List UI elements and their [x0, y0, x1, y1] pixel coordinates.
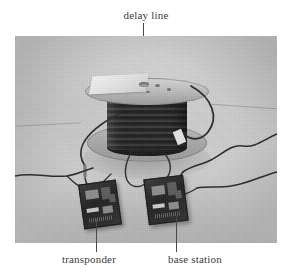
transponder-chip-1 — [85, 189, 99, 200]
cable-floor-right-lower — [197, 172, 277, 188]
base-station-connector — [175, 190, 182, 199]
leader-line-transponder — [96, 219, 97, 252]
base-station-label-strip — [152, 203, 164, 208]
cable-network — [15, 36, 277, 243]
figure-delay-line-setup: delay line — [0, 0, 292, 277]
cable-floor-right-main — [183, 134, 277, 172]
transponder-header-pins — [89, 215, 113, 222]
transponder-chip-3 — [102, 205, 113, 213]
cable-to-transponder — [81, 114, 119, 166]
base-station-chip-3 — [168, 202, 179, 210]
base-station-circuit-board — [143, 175, 188, 226]
transponder-label-strip — [86, 207, 98, 213]
label-delay-line: delay line — [0, 9, 292, 21]
cable-center-to-boards — [125, 148, 145, 187]
photograph — [15, 36, 277, 243]
cable-spool-right-loop — [185, 86, 213, 139]
transponder-connector — [109, 194, 116, 203]
transponder-circuit-board — [78, 180, 122, 230]
base-station-chip-1 — [151, 185, 165, 196]
label-base-station: base station — [140, 253, 250, 265]
leader-line-base-station — [176, 216, 177, 252]
cable-floor-left — [15, 168, 93, 176]
